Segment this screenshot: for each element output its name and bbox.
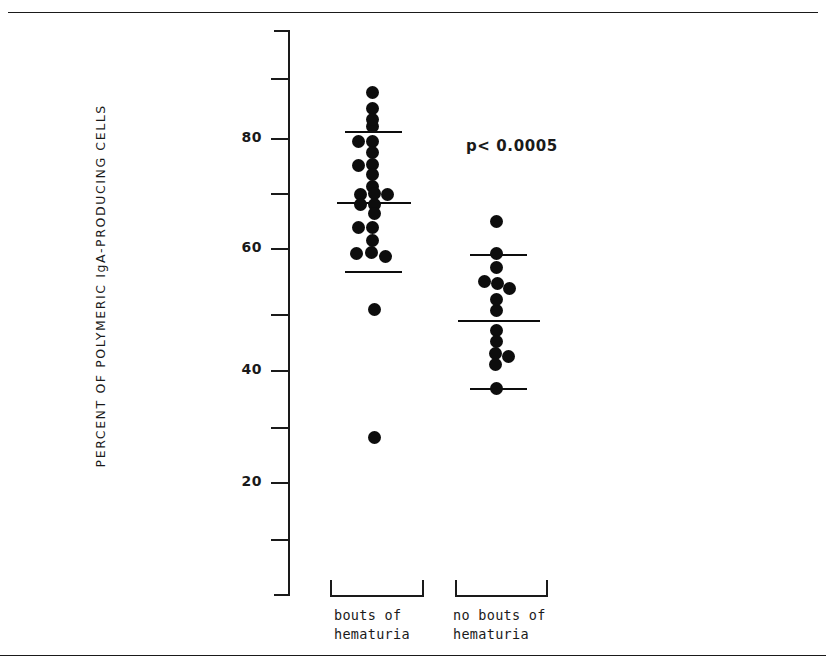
data-point — [366, 234, 379, 247]
right-sd-upper — [470, 254, 527, 256]
data-point — [366, 168, 379, 181]
data-point — [478, 275, 491, 288]
y-axis-title: PERCENT OF POLYMERIC IgA-PRODUCING CELLS — [93, 148, 108, 468]
data-point — [352, 159, 365, 172]
y-axis-tick-label: 40 — [222, 361, 262, 377]
y-axis-tick — [271, 78, 289, 80]
data-point — [365, 246, 378, 259]
data-point — [368, 207, 381, 220]
bracket-bouts — [330, 580, 424, 597]
y-axis-top-cap — [274, 30, 290, 32]
y-axis-tick — [271, 427, 289, 429]
group-label-line1: bouts of — [334, 606, 410, 625]
y-axis-tick — [271, 248, 289, 250]
y-axis-tick — [271, 539, 289, 541]
data-point — [366, 146, 379, 159]
right-mean — [458, 320, 540, 322]
group-label-line1: no bouts of — [453, 606, 546, 625]
y-axis-tick — [271, 314, 289, 316]
y-axis-tick — [271, 482, 289, 484]
group-label-line2: hematuria — [334, 625, 410, 644]
data-point — [490, 215, 503, 228]
data-point — [381, 188, 394, 201]
y-axis-tick — [271, 370, 289, 372]
data-point — [491, 277, 504, 290]
bracket-no-bouts — [455, 580, 548, 597]
dot-plot: 80604020 PERCENT OF POLYMERIC IgA-PRODUC… — [0, 0, 826, 669]
data-point — [366, 113, 379, 126]
data-point — [366, 221, 379, 234]
data-point — [379, 250, 392, 263]
data-point — [489, 358, 502, 371]
data-point — [502, 350, 515, 363]
right-sd-lower — [470, 388, 527, 390]
label-no-bouts: no bouts ofhematuria — [453, 606, 546, 644]
label-bouts: bouts ofhematuria — [334, 606, 410, 644]
y-axis-bottom-cap — [274, 594, 290, 596]
data-point — [368, 303, 381, 316]
left-sd-lower — [345, 271, 402, 273]
data-point — [490, 293, 503, 306]
data-point — [350, 247, 363, 260]
y-axis-tick — [271, 193, 289, 195]
data-point — [366, 86, 379, 99]
p-value-annotation: p< 0.0005 — [466, 137, 558, 155]
data-point — [368, 431, 381, 444]
left-sd-upper — [345, 131, 402, 133]
left-mean — [337, 202, 411, 204]
group-label-line2: hematuria — [453, 625, 546, 644]
data-point — [503, 282, 516, 295]
data-point — [490, 261, 503, 274]
y-axis-tick-label: 60 — [222, 239, 262, 255]
y-axis-tick-label: 20 — [222, 473, 262, 489]
data-point — [490, 335, 503, 348]
y-axis-tick-label: 80 — [222, 129, 262, 145]
data-point — [352, 221, 365, 234]
y-axis-line — [288, 30, 290, 596]
y-axis-tick — [271, 138, 289, 140]
data-point — [352, 135, 365, 148]
figure-canvas: 80604020 PERCENT OF POLYMERIC IgA-PRODUC… — [0, 0, 826, 669]
data-point — [490, 247, 503, 260]
